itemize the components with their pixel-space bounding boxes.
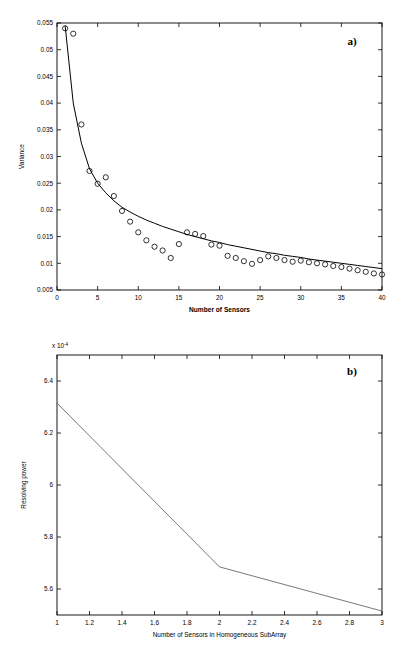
- data-point: [355, 268, 360, 273]
- y-tick-label: 5.6: [44, 585, 53, 592]
- panel-b-y-exponent-power: -4: [64, 342, 69, 347]
- x-tick-label: 1.8: [183, 619, 192, 626]
- data-point: [371, 271, 376, 276]
- y-tick-label: 0.04: [41, 99, 54, 106]
- y-tick-label: 5.8: [44, 533, 53, 540]
- data-point: [306, 260, 311, 265]
- data-point: [193, 231, 198, 236]
- y-tick-label: 0.05: [41, 46, 54, 53]
- data-point: [314, 261, 319, 266]
- panel-b-ylabel: Resolving power: [20, 461, 28, 509]
- x-tick-label: 35: [338, 294, 346, 301]
- data-point: [168, 255, 173, 260]
- y-tick-label: 0.055: [37, 19, 53, 26]
- data-point: [258, 258, 263, 263]
- data-point: [266, 254, 271, 259]
- data-point: [160, 248, 165, 253]
- x-tick-label: 2.2: [248, 619, 257, 626]
- figure-container: 05101520253035400.0050.010.0150.020.0250…: [0, 0, 404, 653]
- data-point: [79, 122, 84, 127]
- data-point: [249, 261, 254, 266]
- panel-a-tag: a): [347, 35, 357, 48]
- y-tick-label: 0.03: [41, 153, 54, 160]
- y-tick-label: 0.025: [37, 180, 53, 187]
- data-point: [152, 244, 157, 249]
- panel-b-data-line: [57, 403, 382, 611]
- data-point: [128, 219, 133, 224]
- x-tick-label: 1.2: [85, 619, 94, 626]
- panel-a-variance-plot: 05101520253035400.0050.010.0150.020.0250…: [0, 0, 404, 330]
- data-point: [274, 255, 279, 260]
- y-tick-label: 0.035: [37, 126, 53, 133]
- x-tick-label: 3: [380, 619, 384, 626]
- y-tick-label: 6.4: [44, 377, 53, 384]
- data-point: [225, 253, 230, 258]
- y-tick-label: 0.02: [41, 206, 54, 213]
- panel-a-axes-frame: [57, 23, 382, 290]
- panel-b-svg: 11.21.41.61.822.22.42.62.835.65.866.26.4…: [0, 320, 404, 653]
- x-tick-label: 15: [175, 294, 183, 301]
- x-tick-label: 1.4: [118, 619, 127, 626]
- data-point: [233, 255, 238, 260]
- data-point: [363, 269, 368, 274]
- data-point: [71, 31, 76, 36]
- x-tick-label: 2.6: [313, 619, 322, 626]
- x-tick-label: 1: [55, 619, 59, 626]
- data-point: [144, 238, 149, 243]
- data-point: [103, 175, 108, 180]
- y-tick-label: 0.005: [37, 286, 53, 293]
- data-point: [217, 243, 222, 248]
- y-tick-label: 6: [49, 481, 53, 488]
- panel-a-ylabel: Variance: [18, 144, 25, 169]
- data-point: [136, 230, 141, 235]
- y-tick-label: 0.01: [41, 260, 54, 267]
- data-point: [347, 266, 352, 271]
- data-point: [331, 263, 336, 268]
- x-tick-label: 5: [96, 294, 100, 301]
- data-point: [111, 193, 116, 198]
- x-tick-label: 2: [218, 619, 222, 626]
- x-tick-label: 0: [55, 294, 59, 301]
- panel-b-xlabel: Number of Sensors in Homogeneous SubArra…: [153, 631, 287, 639]
- x-tick-label: 1.6: [150, 619, 159, 626]
- data-point: [209, 242, 214, 247]
- x-tick-label: 10: [135, 294, 143, 301]
- x-tick-label: 25: [257, 294, 265, 301]
- x-tick-label: 40: [378, 294, 386, 301]
- panel-b-axes-frame: [57, 355, 382, 615]
- data-point: [290, 259, 295, 264]
- data-point: [176, 241, 181, 246]
- x-tick-label: 30: [297, 294, 305, 301]
- x-tick-label: 2.4: [280, 619, 289, 626]
- panel-a-fit-curve: [65, 26, 382, 269]
- data-point: [201, 233, 206, 238]
- panel-b-tag: b): [347, 365, 357, 378]
- data-point: [282, 258, 287, 263]
- y-tick-label: 0.015: [37, 233, 53, 240]
- y-tick-label: 0.045: [37, 73, 53, 80]
- panel-a-svg: 05101520253035400.0050.010.0150.020.0250…: [0, 0, 404, 330]
- panel-a-data-markers: [63, 26, 385, 277]
- data-point: [119, 208, 124, 213]
- data-point: [323, 262, 328, 267]
- data-point: [298, 258, 303, 263]
- x-tick-label: 20: [216, 294, 224, 301]
- panel-b-y-exponent: x 10-4: [52, 342, 69, 349]
- panel-a-xlabel: Number of Sensors: [189, 306, 250, 313]
- data-point: [339, 264, 344, 269]
- data-point: [241, 259, 246, 264]
- panel-b-resolving-power-plot: 11.21.41.61.822.22.42.62.835.65.866.26.4…: [0, 320, 404, 653]
- x-tick-label: 2.8: [345, 619, 354, 626]
- y-tick-label: 6.2: [44, 429, 53, 436]
